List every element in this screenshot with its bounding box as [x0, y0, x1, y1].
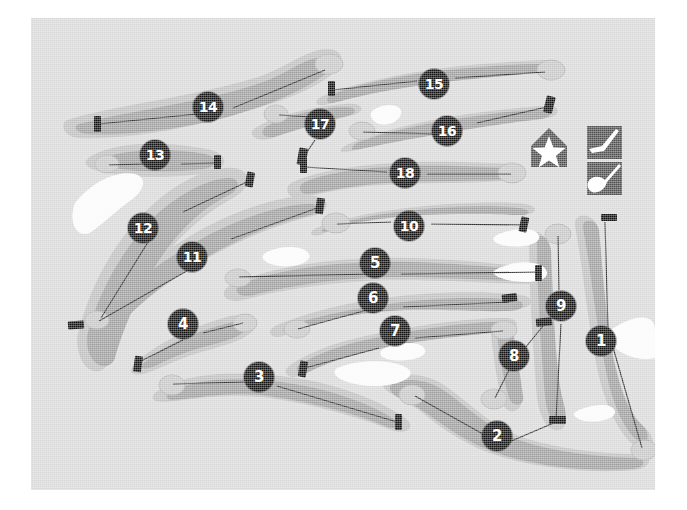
hole-marker-11[interactable]: 11: [177, 242, 207, 272]
hole-marker-1[interactable]: 1: [586, 326, 616, 356]
hole-marker-8[interactable]: 8: [499, 341, 529, 371]
tee-box: [535, 265, 542, 281]
hole-marker-15[interactable]: 15: [419, 69, 449, 99]
hole-marker-17[interactable]: 17: [305, 109, 335, 139]
course-map-graphics: [31, 18, 655, 490]
hole-marker-2[interactable]: 2: [482, 421, 512, 451]
hole-marker-12[interactable]: 12: [128, 213, 158, 243]
tee-box: [395, 414, 402, 430]
hole-marker-4[interactable]: 4: [168, 309, 198, 339]
tee-box: [601, 214, 617, 221]
course-map[interactable]: 1 2 3 4 5 6 7 8 9 10 11 12 13 14 15 16 1…: [31, 18, 655, 490]
hole-marker-10[interactable]: 10: [394, 211, 424, 241]
tee-box: [328, 81, 335, 96]
hole-marker-6[interactable]: 6: [358, 283, 388, 313]
tee-box: [68, 320, 85, 329]
tee-box: [300, 158, 307, 173]
tee-box: [549, 416, 566, 424]
tee-box: [94, 116, 101, 132]
hole-marker-13[interactable]: 13: [140, 140, 170, 170]
tee-box: [536, 317, 553, 327]
hole-marker-18[interactable]: 18: [390, 158, 420, 188]
hole-marker-3[interactable]: 3: [244, 362, 274, 392]
golf-course-map-page: 1 2 3 4 5 6 7 8 9 10 11 12 13 14 15 16 1…: [0, 0, 687, 510]
hole-marker-9[interactable]: 9: [546, 291, 576, 321]
hole-marker-5[interactable]: 5: [360, 248, 390, 278]
tee-box: [245, 171, 255, 187]
tee-box: [214, 155, 221, 169]
hole-marker-7[interactable]: 7: [380, 316, 410, 346]
hole-marker-14[interactable]: 14: [193, 92, 223, 122]
hole-marker-16[interactable]: 16: [432, 116, 462, 146]
